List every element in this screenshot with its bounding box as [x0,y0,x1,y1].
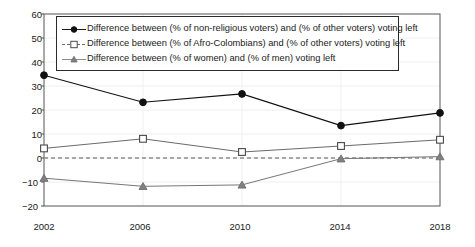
legend-label-women-men: Difference between (% of women) and (% o… [87,52,335,65]
filled-triangle-marker-icon [61,52,87,65]
chart-container: 60 50 40 30 20 10 0 −10 −20 2002 2006 20… [0,0,475,247]
legend-item-non-religious: Difference between (% of non-religious v… [61,21,393,36]
chart-legend: Difference between (% of non-religious v… [56,16,399,71]
filled-circle-marker-icon [61,22,87,35]
legend-label-non-religious: Difference between (% of non-religious v… [87,22,418,35]
legend-label-afro-colombians: Difference between (% of Afro-Colombians… [87,37,405,50]
legend-item-women-men: Difference between (% of women) and (% o… [61,51,393,66]
open-square-marker-icon [61,37,87,50]
legend-item-afro-colombians: Difference between (% of Afro-Colombians… [61,36,393,51]
